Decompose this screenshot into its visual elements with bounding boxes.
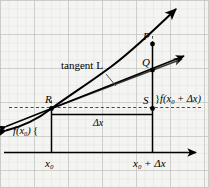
point-R xyxy=(49,106,54,111)
label-point-R: R xyxy=(45,94,52,105)
point-S xyxy=(150,106,155,111)
label-delta-x: Δx xyxy=(93,118,103,128)
tick-x0-sub: 0 xyxy=(50,163,53,170)
label-f-x0-main: f(x xyxy=(13,125,24,136)
tangent-secant-figure: tangent L P Q R S Δx f(x0)} }f(x0 + Δx) … xyxy=(0,0,209,188)
label-point-S: S xyxy=(143,95,149,106)
label-point-Q: Q xyxy=(142,57,150,68)
tick-x0-dx-rest: + Δx xyxy=(141,157,165,169)
tick-label-x0-plus-dx: x0 + Δx xyxy=(133,158,166,171)
label-f-x0-close: ) xyxy=(27,125,31,136)
label-f-x0-dx-main: f(x xyxy=(160,93,171,104)
label-f-x0-brace: } xyxy=(33,126,38,137)
tangent-label-text: tangent L xyxy=(61,59,103,71)
point-P xyxy=(150,42,155,47)
label-f-x0: f(x0)} xyxy=(13,126,38,137)
tick-label-x0: x0 xyxy=(45,158,53,171)
label-f-x0-plus-dx: }f(x0 + Δx) xyxy=(155,94,201,105)
point-Q xyxy=(150,68,155,73)
tangent-line-label: tangent L xyxy=(61,60,103,71)
label-f-x0-dx-rest: + Δx) xyxy=(174,93,201,104)
label-point-P: P xyxy=(143,31,150,42)
